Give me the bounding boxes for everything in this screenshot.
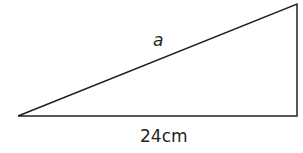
- base-label: 24cm: [140, 126, 188, 146]
- triangle-diagram: a 24cm: [0, 0, 303, 153]
- hypotenuse-label: a: [153, 30, 163, 50]
- right-triangle: [18, 4, 297, 116]
